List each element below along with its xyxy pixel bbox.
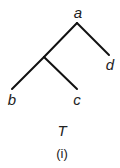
edge-n1-b <box>12 57 44 89</box>
caption: (i) <box>56 146 68 161</box>
edge-a-d <box>77 23 109 55</box>
tree-diagram: a d b c T (i) <box>0 0 120 168</box>
tree-name: T <box>57 122 68 139</box>
node-label-b: b <box>8 91 16 108</box>
node-label-d: d <box>106 56 115 73</box>
node-label-a: a <box>74 4 82 21</box>
node-label-c: c <box>73 91 81 108</box>
edge-a-n1 <box>44 23 77 57</box>
edge-n1-c <box>44 57 77 89</box>
